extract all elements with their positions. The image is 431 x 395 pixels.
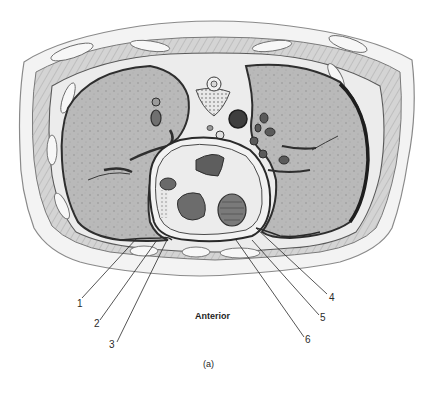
- label-2: 2: [94, 319, 100, 329]
- label-5: 5: [320, 313, 326, 323]
- label-3: 3: [109, 340, 115, 350]
- panel-caption: (a): [203, 359, 214, 369]
- thorax-cross-section-illustration: [0, 0, 431, 395]
- label-6: 6: [305, 335, 311, 345]
- label-1: 1: [77, 299, 83, 309]
- anatomy-figure: 1 2 3 4 5 6 Anterior (a): [0, 0, 431, 395]
- label-4: 4: [329, 293, 335, 303]
- orientation-label: Anterior: [195, 311, 230, 321]
- heart: [150, 138, 271, 242]
